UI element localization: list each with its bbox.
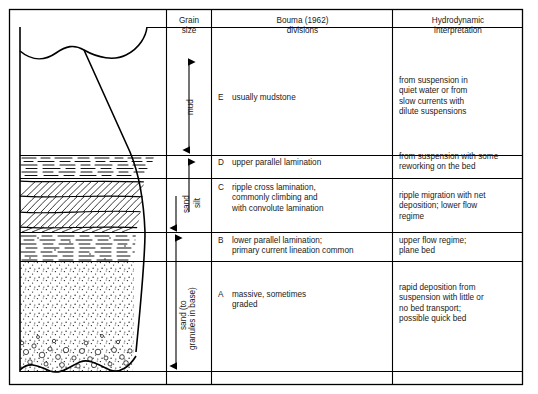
grain-size-label-granules-in-base: granules in base) bbox=[188, 287, 198, 350]
division-letter-E: E bbox=[218, 93, 223, 103]
division-letter-D: D bbox=[218, 158, 224, 168]
division-description-C: ripple cross lamination, commonly climbi… bbox=[232, 183, 390, 214]
division-description-E: usually mudstone bbox=[232, 93, 387, 103]
division-letter-B: B bbox=[218, 236, 223, 246]
hydro-interpretation-A: rapid deposition from suspension with li… bbox=[399, 283, 521, 325]
division-description-D: upper parallel lamination bbox=[232, 158, 387, 168]
hydro-interpretation-E: from suspension in quiet water or from s… bbox=[399, 76, 521, 118]
division-letter-A: A bbox=[218, 290, 223, 300]
division-letter-C: C bbox=[218, 183, 224, 193]
grain-size-label-sand: sand bbox=[182, 195, 192, 213]
bouma-sequence-figure: Grain size Bouma (1962) divisions Hydrod… bbox=[0, 0, 538, 394]
division-description-B: lower parallel lamination; primary curre… bbox=[232, 236, 392, 257]
hydro-interpretation-C: ripple migration with net deposition; lo… bbox=[399, 191, 521, 222]
division-description-A: massive, sometimes graded bbox=[232, 290, 387, 311]
grain-size-label-silt: silt bbox=[193, 198, 203, 208]
hydro-interpretation-B: upper flow regime; plane bed bbox=[399, 236, 521, 257]
hydro-interpretation-D: from suspension with some reworking on t… bbox=[399, 152, 521, 173]
grain-size-label-mud: mud bbox=[186, 99, 196, 115]
